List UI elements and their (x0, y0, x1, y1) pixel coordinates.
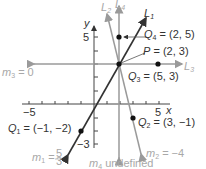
label-Q2: Q2 = (3, −1) (138, 116, 195, 129)
point-Q4 (116, 34, 121, 39)
slope-m3: m3 = 0 (2, 66, 34, 79)
slope-m1: m1 = 5 3 (32, 147, 62, 167)
label-P: P = (2, 3) (143, 45, 189, 57)
point-P (116, 61, 121, 66)
label-L2: L2 (101, 1, 111, 14)
y-axis (94, 26, 98, 148)
label-L3: L3 (184, 60, 194, 73)
label-Q1: Q1 = (−1, −2) (8, 122, 72, 135)
x-axis (22, 101, 170, 104)
point-Q1 (78, 128, 83, 133)
y-tick-neg3: −3 (77, 138, 90, 150)
point-Q2 (130, 115, 135, 120)
y-tick-5: 5 (83, 31, 89, 43)
label-L4: L4 (115, 0, 125, 11)
slope-m4: m4 undefined (89, 157, 153, 169)
label-Q3: Q3 = (5, 3) (128, 70, 179, 83)
x-tick-neg5: −5 (23, 106, 36, 118)
y-axis-label: y (83, 17, 91, 29)
x-axis-label: x (165, 104, 172, 116)
label-Q4: Q4 = (2, 5) (144, 28, 195, 41)
label-L1: L1 (144, 7, 154, 20)
line-L1 (68, 18, 146, 155)
svg-text:m1 =: m1 = (32, 151, 55, 164)
svg-text:3: 3 (56, 155, 62, 167)
point-Q3 (155, 61, 160, 66)
slope-diagram: y x 5 −3 −5 5 L2 L4 L1 L3 Q4 = (2, 5) P … (0, 0, 206, 169)
